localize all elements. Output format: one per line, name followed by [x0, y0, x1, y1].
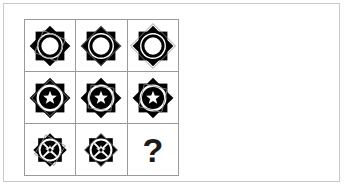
matrix-cell-r1c2[interactable]	[76, 20, 126, 71]
matrix-cell-r2c1[interactable]	[25, 72, 75, 123]
matrix-grid: ?	[24, 19, 179, 176]
rosette-figure-icon	[129, 22, 177, 70]
rosette-figure-icon	[129, 74, 177, 122]
puzzle-root: ?	[0, 0, 350, 192]
matrix-cell-r3c2[interactable]	[76, 124, 126, 175]
matrix-cell-r3c1[interactable]	[25, 124, 75, 175]
rosette-figure-icon	[26, 126, 74, 174]
matrix-cell-r1c1[interactable]	[25, 20, 75, 71]
rosette-figure-icon	[77, 74, 125, 122]
matrix-cell-r2c3[interactable]	[128, 72, 178, 123]
matrix-cell-r3c3[interactable]: ?	[128, 124, 178, 175]
outer-frame: ?	[3, 3, 340, 182]
rosette-figure-icon	[26, 74, 74, 122]
rosette-figure-icon	[77, 126, 125, 174]
missing-cell-question-mark: ?	[142, 133, 163, 167]
matrix-cell-r2c2[interactable]	[76, 72, 126, 123]
rosette-figure-icon	[26, 22, 74, 70]
rosette-figure-icon	[77, 22, 125, 70]
matrix-cell-r1c3[interactable]	[128, 20, 178, 71]
